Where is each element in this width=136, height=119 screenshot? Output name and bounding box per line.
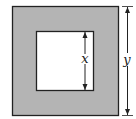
x-label: x <box>81 51 89 66</box>
y-label: y <box>122 52 131 67</box>
square-frame-diagram: x y <box>0 0 136 119</box>
